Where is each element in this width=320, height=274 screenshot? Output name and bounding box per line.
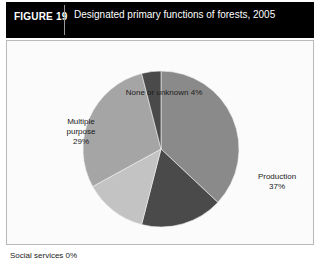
pie-label-production-value: 37%	[238, 182, 314, 192]
pie-label-multiple-purpose-line1: Multiple	[39, 117, 123, 127]
pie-label-none-or-unknown: None or unknown 4%	[105, 88, 223, 98]
pie-label-production: Production 37%	[238, 172, 314, 192]
figure-number-label: FIGURE 19	[6, 2, 64, 22]
pie-label-multiple-purpose: Multiple purpose 29%	[39, 117, 123, 147]
pie-label-multiple-purpose-line2: purpose	[39, 127, 123, 137]
pie-label-multiple-purpose-value: 29%	[39, 137, 123, 147]
pie-label-social-services: Social services 0%	[10, 251, 77, 261]
pie-label-production-line1: Production	[238, 172, 314, 182]
figure-header: FIGURE 19 Designated primary functions o…	[6, 2, 314, 38]
figure-container: FIGURE 19 Designated primary functions o…	[0, 0, 320, 274]
chart-panel: None or unknown 4% Multiple purpose 29% …	[6, 40, 314, 245]
figure-title: Designated primary functions of forests,…	[65, 2, 314, 21]
